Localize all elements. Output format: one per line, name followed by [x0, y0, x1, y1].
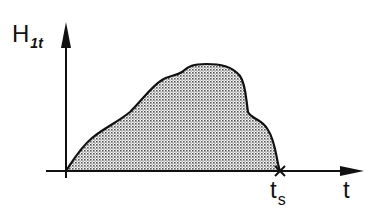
area-under-curve [66, 64, 280, 171]
ts-label-main: t [270, 176, 277, 203]
y-axis-label-subscript: 1t [30, 35, 42, 51]
x-axis-label: t [343, 178, 350, 202]
diagram-canvas [0, 0, 379, 222]
y-axis-arrow-icon [61, 22, 71, 48]
ts-label: ts [270, 178, 286, 205]
y-axis-label-main: H [12, 20, 29, 47]
x-axis-arrow-icon [340, 166, 364, 176]
y-axis-label: H1t [12, 22, 43, 49]
ts-label-subscript: s [278, 191, 286, 208]
